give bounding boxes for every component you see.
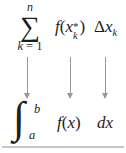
delta-symbol: Δ	[94, 17, 105, 36]
definite-integral-operator: ∫ b a	[13, 100, 49, 148]
arrow-head	[67, 93, 73, 99]
riemann-sum-operator: n ∑ k= 1	[8, 1, 52, 53]
arrow-shaft	[70, 57, 71, 94]
integral-upper-bound: b	[34, 103, 40, 115]
sampled-function-term: f(x*k)	[55, 16, 85, 41]
function-variable: x	[65, 17, 73, 36]
arrow-shaft	[27, 57, 28, 94]
arrow-head	[102, 93, 108, 99]
close-paren: )	[79, 17, 85, 36]
integral-lower-bound: a	[29, 129, 35, 141]
sigma-symbol: ∑	[8, 13, 52, 40]
sum-index-variable: k	[18, 39, 24, 53]
k-subscript: k	[73, 31, 79, 41]
bottom-rule	[2, 146, 124, 148]
down-arrow-icon	[66, 57, 75, 100]
differential-term: dx	[97, 112, 113, 134]
delta-subscript: k	[112, 27, 117, 38]
sup-sub-stack: *k	[73, 22, 79, 41]
integrand-term: f(x)	[57, 112, 81, 134]
riemann-sum-to-integral-diagram: n ∑ k= 1 f(x*k) Δxk ∫ b a f(x) dx	[0, 0, 126, 153]
integrand-close-paren: )	[75, 113, 81, 132]
sum-lower-equals-value: = 1	[26, 39, 42, 53]
down-arrow-icon	[101, 57, 110, 100]
delta-x-term: Δxk	[94, 16, 117, 44]
arrow-shaft	[105, 57, 106, 94]
sum-lower-limit: k= 1	[8, 40, 52, 53]
integrand-variable: x	[67, 113, 75, 132]
integral-symbol: ∫	[13, 96, 25, 140]
